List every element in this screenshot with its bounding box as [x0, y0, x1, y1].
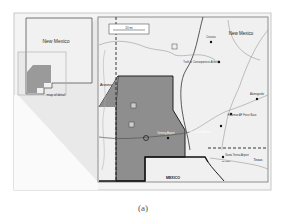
place-label: Truth or Consequences Airfield [183, 60, 219, 64]
place-label: Las Cruces Airfield [189, 130, 211, 134]
map-figure: New Mexico map of detail [0, 0, 286, 223]
scale-bar-label: 20 mi [125, 26, 133, 30]
city-marker-icon [210, 41, 212, 43]
arizona-label: Arizona [100, 83, 112, 87]
texas-label: Texas [254, 158, 263, 162]
place-label: El Paso [222, 160, 231, 163]
inset-state-label: New Mexico [42, 38, 69, 44]
place-label: Holloman AF Force Base [228, 113, 257, 117]
city-marker-icon [256, 98, 258, 100]
highway-shield-icon [131, 103, 136, 108]
place-label: Deming Airport [157, 131, 174, 135]
place-label: Alamogordo [250, 92, 265, 96]
highway-shield-icon [172, 44, 177, 49]
place-label: Crosses [206, 35, 216, 39]
city-marker-icon [167, 137, 169, 139]
map-svg: New Mexico map of detail [0, 0, 286, 223]
place-label: Santa Teresa Airport [225, 153, 249, 157]
mexico-label: MEXICO [166, 176, 180, 180]
city-marker-icon [222, 156, 224, 158]
highway-shield-icon [129, 122, 134, 127]
inset-detail-label: map of detail [47, 93, 66, 97]
city-marker-icon [220, 125, 222, 127]
figure-caption: (a) [0, 203, 286, 213]
new-mexico-label: New Mexico [229, 31, 254, 36]
detail-map: 20 mi New Mexico Arizona MEXICO Texas Cr… [98, 17, 268, 182]
